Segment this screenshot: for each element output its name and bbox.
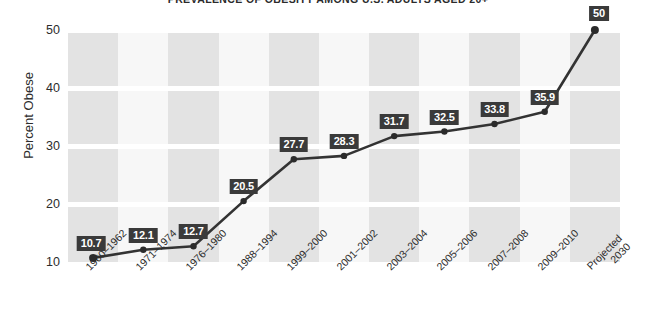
y-axis-tick-label: 10 — [34, 256, 60, 268]
y-axis-tick-label: 30 — [34, 140, 60, 152]
data-point-marker — [542, 109, 548, 115]
data-point-marker — [341, 153, 347, 159]
data-value-label: 50 — [589, 6, 609, 21]
plot-area: 10.712.112.720.527.728.331.732.533.835.9… — [68, 30, 620, 262]
data-value-label: 33.8 — [480, 102, 509, 117]
y-axis-tick-labels: 1020304050 — [34, 0, 60, 325]
y-axis-tick-label: 40 — [34, 82, 60, 94]
data-point-marker — [391, 133, 397, 139]
data-value-label: 12.1 — [129, 228, 158, 243]
y-axis-tick-label: 50 — [34, 24, 60, 36]
chart-title: PREVALENCE OF OBESITY AMONG U.S. ADULTS … — [0, 0, 656, 5]
data-value-label: 20.5 — [229, 179, 258, 194]
data-value-label: 32.5 — [430, 110, 459, 125]
data-point-marker — [190, 243, 196, 249]
y-axis-tick-label: 20 — [34, 198, 60, 210]
data-value-label: 28.3 — [330, 134, 359, 149]
data-point-marker — [240, 198, 246, 204]
data-point-marker — [441, 128, 447, 134]
x-axis-tick-labels: 1960–19621971–19741976–19801988–19941999… — [68, 264, 620, 325]
data-value-label: 27.7 — [280, 137, 309, 152]
data-point-marker — [591, 26, 599, 34]
data-point-marker — [291, 156, 297, 162]
data-value-label: 35.9 — [530, 90, 559, 105]
data-value-label: 31.7 — [380, 114, 409, 129]
data-point-marker — [491, 121, 497, 127]
data-value-label: 12.7 — [179, 224, 208, 239]
obesity-line-chart: PREVALENCE OF OBESITY AMONG U.S. ADULTS … — [0, 0, 656, 325]
